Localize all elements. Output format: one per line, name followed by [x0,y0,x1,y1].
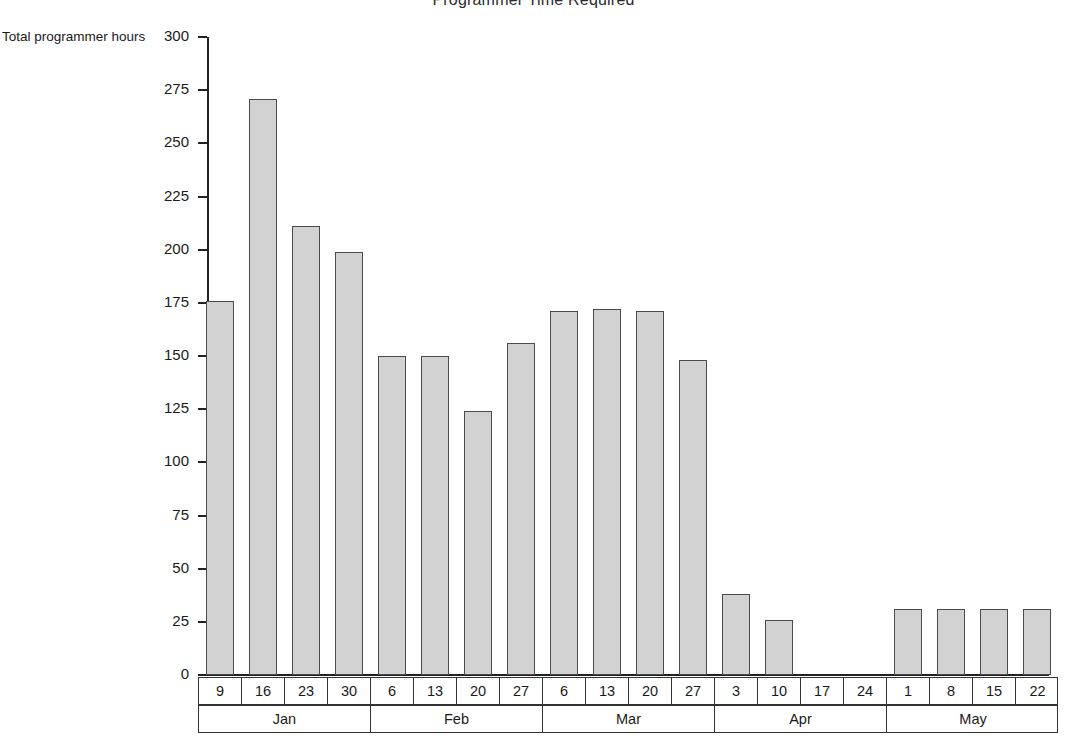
x-axis-day-cell: 8 [930,678,973,704]
y-tick: 200 [198,249,207,251]
bar [292,226,320,675]
bar [507,343,535,675]
x-axis-day-cell: 6 [543,678,586,704]
bar [550,311,578,675]
chart-title: Programmer Time Required [0,0,1067,9]
x-axis-tables: 9162330613202761320273101724181522 JanFe… [198,677,1058,735]
x-axis-day-cell: 20 [629,678,672,704]
x-axis-day-cell: 27 [500,678,543,704]
y-tick-label: 150 [164,345,189,364]
x-axis-day-cell: 20 [457,678,500,704]
x-axis-day-cell: 13 [414,678,457,704]
x-axis-day-cell: 13 [586,678,629,704]
x-axis-day-cell: 15 [973,678,1016,704]
x-axis-month-cell: Mar [543,706,715,732]
bar-chart: Programmer Time Required Total programme… [0,0,1067,742]
y-tick-label: 25 [172,611,189,630]
x-axis-day-cell: 17 [801,678,844,704]
bar [206,301,234,675]
bar [593,309,621,675]
x-axis-month-cell: Apr [715,706,887,732]
y-tick-label: 0 [181,664,189,683]
bar [894,609,922,675]
x-axis-day-cell: 6 [371,678,414,704]
x-axis-day-cell: 22 [1016,678,1059,704]
y-axis-caption: Total programmer hours [2,28,152,45]
x-axis-day-row: 9162330613202761320273101724181522 [198,677,1058,705]
bar [980,609,1008,675]
y-tick-label: 300 [164,26,189,45]
y-tick-label: 275 [164,79,189,98]
x-axis-day-cell: 9 [199,678,242,704]
bar [249,99,277,675]
bar [421,356,449,675]
bar [378,356,406,675]
x-axis-day-cell: 10 [758,678,801,704]
x-axis-month-cell: Jan [199,706,371,732]
x-axis-day-cell: 23 [285,678,328,704]
bar [335,252,363,675]
y-tick: 275 [198,89,207,91]
y-tick-label: 200 [164,239,189,258]
x-axis-day-cell: 1 [887,678,930,704]
y-tick-label: 125 [164,398,189,417]
bar [464,411,492,675]
x-axis-day-cell: 3 [715,678,758,704]
y-tick-label: 75 [172,505,189,524]
y-tick: 250 [198,142,207,144]
y-tick-label: 175 [164,292,189,311]
y-tick: 225 [198,196,207,198]
bar [765,620,793,675]
bar [1023,609,1051,675]
x-axis-day-cell: 16 [242,678,285,704]
bar [679,360,707,675]
x-axis-day-cell: 24 [844,678,887,704]
x-axis-month-cell: May [887,706,1059,732]
y-tick-label: 50 [172,558,189,577]
x-axis-month-cell: Feb [371,706,543,732]
plot-area: 3002752502252001751501251007550250 [207,37,1049,675]
bar [937,609,965,675]
bar [722,594,750,675]
y-tick-label: 250 [164,132,189,151]
y-tick-label: 225 [164,186,189,205]
x-axis-day-cell: 30 [328,678,371,704]
y-tick-label: 100 [164,451,189,470]
bar [636,311,664,675]
y-tick: 300 [198,36,207,38]
x-axis-month-row: JanFebMarAprMay [198,705,1058,733]
x-axis-day-cell: 27 [672,678,715,704]
